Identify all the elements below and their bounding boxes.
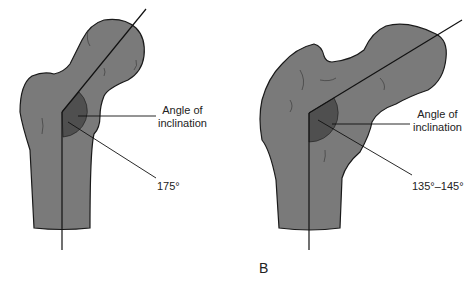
left-angle-label-line2: inclination (158, 117, 207, 130)
right-femur (260, 20, 462, 250)
right-angle-label: Angle of inclination (413, 108, 462, 134)
right-angle-value: 135°–145° (412, 180, 464, 192)
left-angle-label-line1: Angle of (158, 104, 207, 117)
left-angle-value: 175° (157, 180, 180, 192)
right-angle-label-line1: Angle of (413, 108, 462, 121)
femur-diagram (0, 0, 472, 283)
left-angle-label: Angle of inclination (158, 104, 207, 130)
left-femur (20, 9, 156, 250)
panel-letter: B (259, 260, 268, 276)
right-angle-label-line2: inclination (413, 121, 462, 134)
